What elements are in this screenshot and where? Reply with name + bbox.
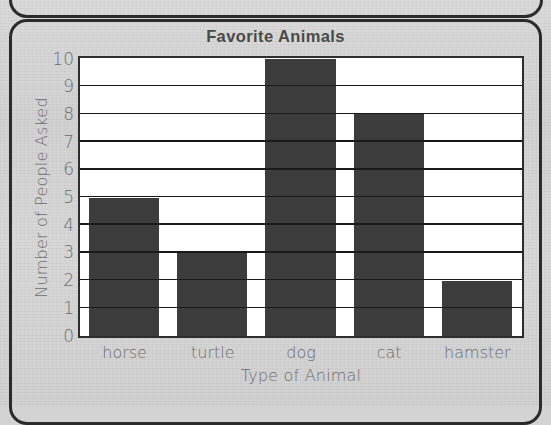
- bar-cat: [354, 114, 424, 336]
- gridline-overlay: [80, 85, 522, 87]
- gridline-overlay: [80, 223, 522, 225]
- gridline-overlay: [80, 196, 522, 198]
- y-tick-10: 10: [44, 50, 74, 67]
- gridline-overlay: [80, 307, 522, 309]
- y-tick-8: 8: [44, 105, 74, 122]
- bar-turtle: [177, 253, 247, 336]
- x-axis-tick-labels: horseturtledogcathamster: [78, 343, 524, 367]
- y-tick-4: 4: [44, 216, 74, 233]
- gridline-overlay: [80, 140, 522, 142]
- y-tick-0: 0: [44, 327, 74, 344]
- y-tick-1: 1: [44, 299, 74, 316]
- plot-area: [78, 56, 524, 338]
- bar-dog: [265, 59, 335, 336]
- bar-horse: [89, 198, 159, 337]
- x-tick-hamster: hamster: [417, 343, 537, 362]
- y-tick-2: 2: [44, 272, 74, 289]
- y-tick-9: 9: [44, 78, 74, 95]
- gridline-overlay: [80, 168, 522, 170]
- y-tick-3: 3: [44, 244, 74, 261]
- y-tick-7: 7: [44, 133, 74, 150]
- gridline-overlay: [80, 279, 522, 281]
- chart-title: Favorite Animals: [0, 27, 551, 46]
- x-axis-title: Type of Animal: [78, 366, 524, 385]
- gridline-overlay: [80, 113, 522, 115]
- y-tick-5: 5: [44, 189, 74, 206]
- clipped-top-panel: [9, 0, 543, 18]
- y-axis-tick-labels: 012345678910: [44, 56, 74, 338]
- y-tick-6: 6: [44, 161, 74, 178]
- gridline-overlay: [80, 251, 522, 253]
- bar-hamster: [442, 281, 512, 336]
